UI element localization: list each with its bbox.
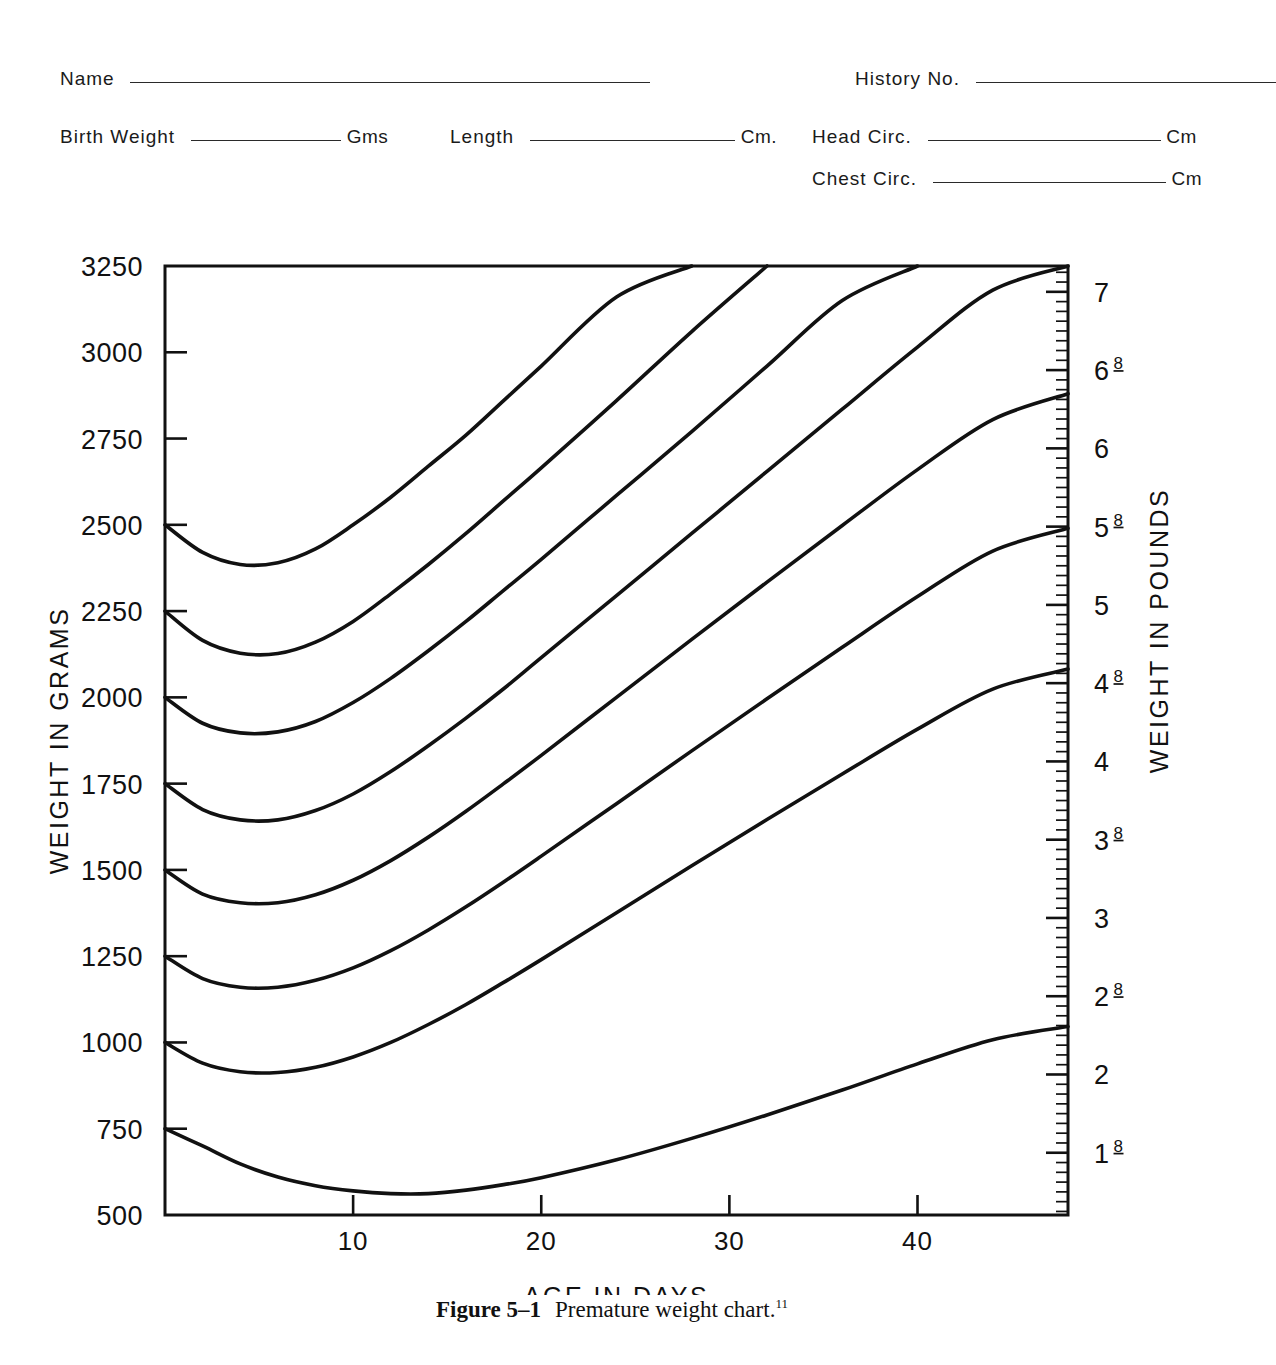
growth-curve-2250g: [165, 266, 767, 655]
y2-tick-label-group-6: 6: [1094, 434, 1110, 464]
y2-tick-label-group-6.5: 68: [1094, 354, 1124, 386]
x-tick-label-10: 10: [338, 1226, 369, 1256]
chart-container: 5007501000125015001750200022502500275030…: [0, 225, 1224, 1295]
growth-curve-2000g: [165, 266, 918, 734]
y2-tick-label-group-5.5: 58: [1094, 511, 1124, 543]
figure-caption-text: Premature weight chart.: [555, 1297, 775, 1322]
length-field-row: Length Cm.: [450, 126, 777, 148]
y-tick-label-750: 750: [96, 1115, 143, 1145]
head-circ-input-line[interactable]: [928, 140, 1161, 141]
y-tick-label-2500: 2500: [81, 511, 143, 541]
birth-weight-label: Birth Weight: [60, 126, 175, 147]
y2-tick-label-2.5: 28: [1094, 980, 1124, 1012]
y2-tick-label-group-4: 4: [1094, 747, 1110, 777]
y2-tick-label-7: 7: [1094, 278, 1110, 308]
x-tick-label-30: 30: [714, 1226, 745, 1256]
growth-curve-1000g: [165, 669, 1068, 1073]
length-unit: Cm.: [741, 126, 777, 147]
y-tick-label-1000: 1000: [81, 1028, 143, 1058]
history-no-input-line[interactable]: [976, 82, 1276, 83]
figure-number: Figure 5–1: [436, 1297, 541, 1322]
y2-tick-label-6: 6: [1094, 434, 1110, 464]
history-no-label: History No.: [855, 68, 960, 89]
birth-weight-field-row: Birth Weight Gms: [60, 126, 388, 148]
y-tick-label-2250: 2250: [81, 597, 143, 627]
length-input-line[interactable]: [530, 140, 735, 141]
figure-caption: Figure 5–1Premature weight chart.11: [0, 1296, 1224, 1323]
axis-titles: WEIGHT IN GRAMS WEIGHT IN POUNDS AGE IN …: [45, 488, 1173, 1295]
y2-tick-label-6.5: 68: [1094, 354, 1124, 386]
y2-tick-label-group-7: 7: [1094, 278, 1110, 308]
chest-circ-input-line[interactable]: [933, 182, 1166, 183]
y-tick-label-1500: 1500: [81, 856, 143, 886]
y2-tick-label-group-5: 5: [1094, 591, 1110, 621]
y-axis-title: WEIGHT IN GRAMS: [45, 607, 73, 875]
x-tick-label-40: 40: [902, 1226, 933, 1256]
x-axis-title: AGE IN DAYS: [524, 1282, 709, 1295]
length-label: Length: [450, 126, 514, 147]
y2-tick-label-group-2: 2: [1094, 1060, 1110, 1090]
y-tick-label-1750: 1750: [81, 770, 143, 800]
y2-axis-title: WEIGHT IN POUNDS: [1145, 488, 1173, 773]
head-circ-label: Head Circ.: [812, 126, 912, 147]
x-axis-age-days: 10203040: [338, 1195, 933, 1256]
chest-circ-unit: Cm: [1172, 168, 1203, 189]
y2-tick-label-3: 3: [1094, 904, 1110, 934]
y-tick-label-3250: 3250: [81, 252, 143, 282]
patient-info-form: Name History No. Birth Weight Gms Length…: [0, 0, 1224, 220]
y2-tick-label-2: 2: [1094, 1060, 1110, 1090]
y2-tick-label-group-4.5: 48: [1094, 667, 1124, 699]
head-circ-field-row: Head Circ. Cm: [812, 126, 1197, 148]
y-tick-label-3000: 3000: [81, 338, 143, 368]
y2-tick-label-group-3.5: 38: [1094, 824, 1124, 856]
history-no-field-row: History No.: [855, 68, 1276, 90]
birth-weight-unit: Gms: [347, 126, 389, 147]
name-field-row: Name: [60, 68, 650, 90]
y-tick-label-2750: 2750: [81, 425, 143, 455]
growth-curve-2500g: [165, 266, 692, 565]
y2-tick-label-1.5: 18: [1094, 1137, 1124, 1169]
name-input-line[interactable]: [130, 82, 650, 83]
birth-weight-input-line[interactable]: [191, 140, 341, 141]
growth-curve-1750g: [165, 266, 1068, 821]
y2-tick-label-5.5: 58: [1094, 511, 1124, 543]
y2-tick-label-4.5: 48: [1094, 667, 1124, 699]
y-tick-label-500: 500: [96, 1201, 143, 1231]
chest-circ-field-row: Chest Circ. Cm: [812, 168, 1202, 190]
y2-axis-pounds: 182283384485586687: [1046, 272, 1124, 1211]
growth-curve-750g: [165, 1027, 1068, 1194]
name-label: Name: [60, 68, 115, 89]
figure-reference-marker: 11: [775, 1296, 788, 1311]
growth-curves: [165, 266, 1068, 1194]
head-circ-unit: Cm: [1166, 126, 1197, 147]
chest-circ-label: Chest Circ.: [812, 168, 917, 189]
y2-tick-label-group-1.5: 18: [1094, 1137, 1124, 1169]
y2-tick-label-4: 4: [1094, 747, 1110, 777]
y-axis-grams: 5007501000125015001750200022502500275030…: [81, 252, 187, 1231]
plot-frame: [165, 266, 1068, 1215]
x-tick-label-20: 20: [526, 1226, 557, 1256]
y-tick-label-1250: 1250: [81, 942, 143, 972]
y2-tick-label-group-3: 3: [1094, 904, 1110, 934]
y-tick-label-2000: 2000: [81, 683, 143, 713]
premature-weight-line-chart: 5007501000125015001750200022502500275030…: [0, 225, 1224, 1295]
y2-tick-label-3.5: 38: [1094, 824, 1124, 856]
y2-tick-label-group-2.5: 28: [1094, 980, 1124, 1012]
y2-tick-label-5: 5: [1094, 591, 1110, 621]
